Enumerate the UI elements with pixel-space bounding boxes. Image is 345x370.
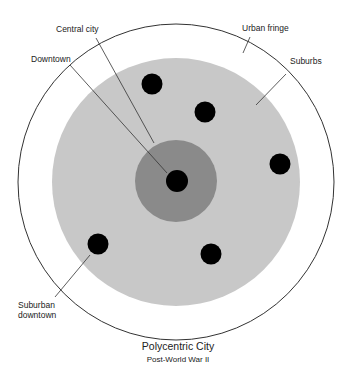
suburbs-label: Suburbs xyxy=(290,56,322,66)
downtown-label: Downtown xyxy=(31,54,71,64)
suburban-downtown-label-line2: downtown xyxy=(18,310,57,320)
suburban-downtown-dot xyxy=(142,74,163,95)
suburban-downtown-dot xyxy=(88,234,109,255)
urban-fringe-label: Urban fringe xyxy=(242,23,289,33)
central-city-label: Central city xyxy=(56,24,99,34)
suburban-downtown-dot xyxy=(270,154,291,175)
suburban-downtown-label-line1: Suburban xyxy=(18,300,55,310)
suburban-downtown-dot xyxy=(201,244,222,265)
suburban-downtown-dot xyxy=(195,102,216,123)
diagram-title: Polycentric City xyxy=(142,340,215,352)
polycentric-city-diagram: Central city Downtown Urban fringe Subur… xyxy=(0,0,345,370)
diagram-subtitle: Post-World War II xyxy=(147,355,210,364)
downtown-dot xyxy=(166,170,188,192)
